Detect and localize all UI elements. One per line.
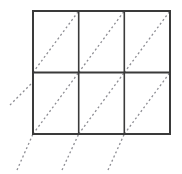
grid-diagram — [0, 0, 182, 174]
figure-canvas — [0, 0, 182, 174]
